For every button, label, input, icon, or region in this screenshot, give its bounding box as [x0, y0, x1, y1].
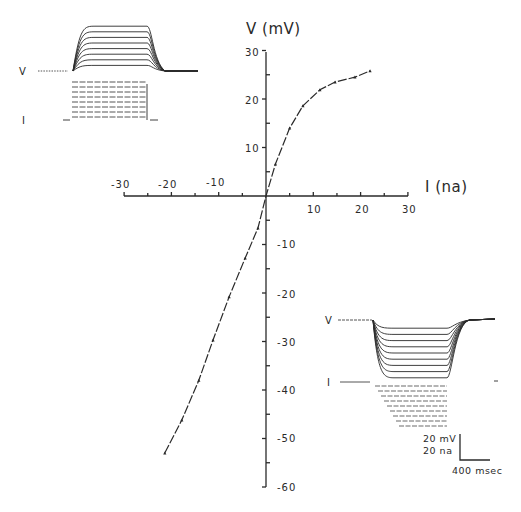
x-tick-label: -20: [158, 179, 177, 190]
data-point-marker: [368, 69, 371, 72]
voltage-trace: [73, 43, 198, 71]
axes: [124, 51, 408, 488]
voltage-trace: [373, 319, 495, 328]
y-tick-label: 10: [245, 143, 260, 154]
voltage-trace: [373, 319, 495, 341]
voltage-trace: [373, 319, 495, 365]
scale-i-label: 20 na: [423, 445, 452, 456]
scale-bar: 20 mV 20 na 400 msec: [423, 433, 502, 476]
data-point-marker: [211, 338, 214, 341]
voltage-trace: [73, 65, 198, 71]
y-axis-title: V (mV): [246, 20, 301, 38]
voltage-trace: [373, 319, 495, 334]
scale-bar-lines: [460, 434, 490, 460]
y-tick-label: -60: [277, 482, 296, 493]
y-tick-label: -40: [277, 385, 296, 396]
data-point-marker: [197, 379, 200, 382]
voltage-trace: [373, 319, 495, 372]
y-tick-label: 30: [245, 47, 260, 58]
y-tick-label: 20: [245, 95, 260, 106]
inset-v-label: V: [325, 315, 332, 326]
scale-v-label: 20 mV: [423, 433, 456, 444]
voltage-trace: [73, 54, 198, 71]
voltage-trace: [373, 319, 495, 353]
data-point-marker: [288, 127, 291, 130]
x-tick-label: -10: [206, 177, 225, 188]
x-tick-label: 20: [355, 204, 370, 215]
x-axis-title: I (na): [425, 178, 468, 196]
y-tick-label: -10: [277, 239, 296, 250]
iv-curve: [163, 69, 371, 454]
inset-i-label: I: [22, 115, 25, 126]
inset-hyperpolarizing-traces: V I: [325, 315, 498, 426]
y-tick-label: -50: [277, 433, 296, 444]
data-point-marker: [274, 162, 277, 165]
y-tick-label: -30: [277, 337, 296, 348]
iv-figure: V (mV) I (na) -30 -20 -10 10 20 30 30 20…: [0, 0, 521, 512]
inset-v-label: V: [19, 66, 26, 77]
voltage-trace: [373, 319, 495, 347]
y-tick-labels: 30 20 10 -10 -20 -30 -40 -50 -60: [245, 47, 296, 493]
data-point-marker: [256, 226, 259, 229]
x-tick-label: 10: [307, 204, 322, 215]
series-line: [165, 71, 370, 453]
inset-i-label: I: [327, 377, 330, 388]
scale-t-label: 400 msec: [452, 465, 502, 476]
x-tick-label: -30: [111, 179, 130, 190]
x-tick-label: 30: [402, 204, 417, 215]
inset-depolarizing-traces: V I: [19, 26, 198, 126]
y-tick-label: -20: [277, 289, 296, 300]
